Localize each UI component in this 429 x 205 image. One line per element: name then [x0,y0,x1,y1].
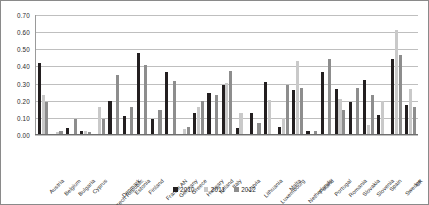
bar [56,132,59,134]
bar [250,113,253,134]
bar [42,95,45,134]
bar-group [319,15,333,134]
bar [108,101,111,134]
bar [173,81,176,134]
bar [207,93,210,134]
bar [268,100,271,134]
bar [257,123,260,134]
bar-group [163,15,177,134]
bar [74,119,77,134]
bar [399,55,402,134]
bar [236,128,239,134]
bar [187,127,190,134]
bar [413,107,416,134]
bar [264,82,267,134]
bar [239,113,242,134]
bar-group [135,15,149,134]
gridline [35,135,418,136]
bar [282,118,285,134]
bar-group [177,15,191,134]
bar-group [291,15,305,134]
bar [130,107,133,134]
bar [201,101,204,134]
bar [38,63,41,134]
chart-legend: 201020112012 [1,186,428,193]
bar [321,72,324,134]
bar-group [390,15,404,134]
bar [278,127,281,134]
bar-group [93,15,107,134]
legend-item: 2012 [234,186,256,193]
bar-group [375,15,389,134]
bar [349,102,352,134]
bar [98,107,101,134]
bar-group [361,15,375,134]
bar-group [149,15,163,134]
bar [395,30,398,134]
bar-group [78,15,92,134]
x-axis-line [35,134,418,135]
bar [363,80,366,134]
bar [229,71,232,134]
bar [367,125,370,134]
legend-label: 2010 [180,186,195,193]
bar [391,59,394,134]
bar [151,119,154,134]
y-axis-tick-label: 0.10 [17,114,30,121]
bar-group [305,15,319,134]
bar [88,132,91,134]
bar [292,90,295,134]
plot-area [35,15,418,135]
bar [123,116,126,134]
bar-group [192,15,206,134]
bar [137,53,140,134]
bar [314,131,317,134]
y-axis-tick-label: 0.50 [17,46,30,53]
bar [158,110,161,134]
y-axis-tick-label: 0.20 [17,97,30,104]
bar [286,85,289,134]
bar-group [276,15,290,134]
bar [116,75,119,134]
bar-group [347,15,361,134]
bar-group [50,15,64,134]
bar [144,65,147,134]
legend-swatch-icon [234,187,239,192]
y-axis-tick-label: 0.60 [17,29,30,36]
y-axis-tick-label: 0.30 [17,80,30,87]
bar [84,131,87,134]
bar-group [220,15,234,134]
y-axis-tick-label: 0.00 [17,132,30,139]
bar [405,105,408,134]
bar [222,85,225,134]
bar [381,101,384,134]
bar [197,107,200,134]
bar-group [64,15,78,134]
bar [102,119,105,134]
legend-label: 2011 [211,186,225,193]
bar [371,95,374,134]
bar [183,129,186,134]
bar [45,102,48,134]
bar-groups [36,15,418,134]
legend-label: 2012 [241,186,256,193]
legend-swatch-icon [204,187,209,192]
bar [215,95,218,134]
bar [165,72,168,134]
bar-group [234,15,248,134]
y-axis-tick-labels: 0.700.600.500.400.300.200.100.00 [1,15,33,135]
bar [338,99,341,134]
y-axis-tick-label: 0.70 [17,12,30,19]
bar-group [262,15,276,134]
legend-item: 2010 [173,186,195,193]
bar [356,88,359,134]
bar [328,59,331,134]
bar [306,131,309,134]
y-axis-tick-label: 0.40 [17,63,30,70]
bar [66,128,69,134]
bar-chart: 0.700.600.500.400.300.200.100.00 Austria… [0,0,429,205]
bar [59,131,62,134]
bar-group [404,15,418,134]
bar-group [107,15,121,134]
bar [335,89,338,134]
